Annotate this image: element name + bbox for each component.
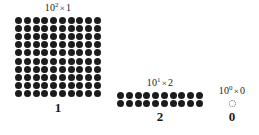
dot-filled <box>76 49 83 56</box>
dot-filled <box>59 33 66 40</box>
place-value-group-hundreds: 102×1 1 <box>9 2 107 115</box>
dot-filled <box>126 92 133 99</box>
dot-filled <box>85 41 92 48</box>
power-label-tens: 101×2 <box>147 77 174 89</box>
dot-filled <box>76 25 83 32</box>
times-symbol-tens: × <box>161 78 168 88</box>
dot-filled <box>85 17 92 24</box>
dot-filled <box>33 41 40 48</box>
dot-filled <box>24 58 31 65</box>
dot-filled <box>41 49 48 56</box>
dot-filled <box>50 33 57 40</box>
dot-filled <box>15 33 22 40</box>
dot-filled <box>152 100 159 107</box>
dot-filled <box>178 92 185 99</box>
dot-filled <box>24 33 31 40</box>
dot-row <box>15 73 102 81</box>
dot-filled <box>33 66 40 73</box>
dot-filled <box>76 41 83 48</box>
power-base-tens: 10 <box>147 77 157 88</box>
dot-row <box>15 16 102 24</box>
dot-filled <box>33 49 40 56</box>
dot-filled <box>15 90 22 97</box>
dot-filled <box>85 49 92 56</box>
dot-filled <box>33 17 40 24</box>
dot-filled <box>196 92 203 99</box>
dot-filled <box>15 66 22 73</box>
dot-filled <box>76 58 83 65</box>
dot-filled <box>50 41 57 48</box>
dot-filled <box>68 25 75 32</box>
multiplier-hundreds: 1 <box>66 2 71 13</box>
dot-row <box>15 41 102 49</box>
place-value-group-ones: 100×0 0 <box>209 85 255 124</box>
dot-filled <box>59 90 66 97</box>
dot-filled <box>143 100 150 107</box>
dot-filled <box>33 82 40 89</box>
dot-filled <box>41 33 48 40</box>
digit-hundreds: 1 <box>55 101 62 115</box>
dot-filled <box>94 66 101 73</box>
dot-row <box>15 49 102 57</box>
dot-filled <box>76 17 83 24</box>
dot-filled <box>59 49 66 56</box>
dot-filled <box>76 66 83 73</box>
dot-filled <box>126 100 133 107</box>
times-symbol-hundreds: × <box>59 3 66 13</box>
dot-filled <box>24 41 31 48</box>
dot-row <box>117 91 204 99</box>
dot-filled <box>33 74 40 81</box>
dot-filled <box>187 92 194 99</box>
dot-filled <box>94 58 101 65</box>
dot-filled <box>170 92 177 99</box>
dot-filled <box>59 17 66 24</box>
dot-filled <box>117 92 124 99</box>
dot-filled <box>50 58 57 65</box>
dot-filled <box>76 33 83 40</box>
dot-row <box>15 57 102 65</box>
dot-filled <box>143 92 150 99</box>
dot-filled <box>94 25 101 32</box>
dot-filled <box>68 82 75 89</box>
place-value-dot-figure: 102×1 1 101×2 2 100×0 0 <box>0 0 259 135</box>
dot-filled <box>24 74 31 81</box>
dot-filled <box>50 17 57 24</box>
dot-filled <box>15 49 22 56</box>
dot-row <box>15 65 102 73</box>
dot-filled <box>50 49 57 56</box>
dot-filled <box>41 58 48 65</box>
dot-filled <box>24 17 31 24</box>
multiplier-ones: 0 <box>240 85 245 96</box>
dot-filled <box>68 49 75 56</box>
dot-filled <box>94 74 101 81</box>
dot-filled <box>41 82 48 89</box>
power-base-ones: 10 <box>219 85 229 96</box>
dot-filled <box>85 74 92 81</box>
power-label-hundreds: 102×1 <box>45 2 72 14</box>
dot-filled <box>50 90 57 97</box>
dot-filled <box>41 66 48 73</box>
dot-filled <box>33 25 40 32</box>
dot-filled <box>59 74 66 81</box>
dot-filled <box>24 90 31 97</box>
dot-filled <box>50 82 57 89</box>
dot-filled <box>15 58 22 65</box>
dot-filled <box>85 58 92 65</box>
dot-filled <box>41 17 48 24</box>
dot-filled <box>59 58 66 65</box>
dot-filled <box>24 25 31 32</box>
dot-filled <box>94 41 101 48</box>
multiplier-tens: 2 <box>168 77 173 88</box>
dot-row <box>15 32 102 40</box>
digit-ones: 0 <box>229 110 236 124</box>
dot-filled <box>59 25 66 32</box>
times-symbol-ones: × <box>233 86 240 96</box>
dot-filled <box>117 100 124 107</box>
dot-filled <box>85 82 92 89</box>
dot-filled <box>41 41 48 48</box>
dot-filled <box>161 100 168 107</box>
dot-filled <box>33 33 40 40</box>
dot-filled <box>94 33 101 40</box>
dot-filled <box>33 58 40 65</box>
dot-filled <box>170 100 177 107</box>
